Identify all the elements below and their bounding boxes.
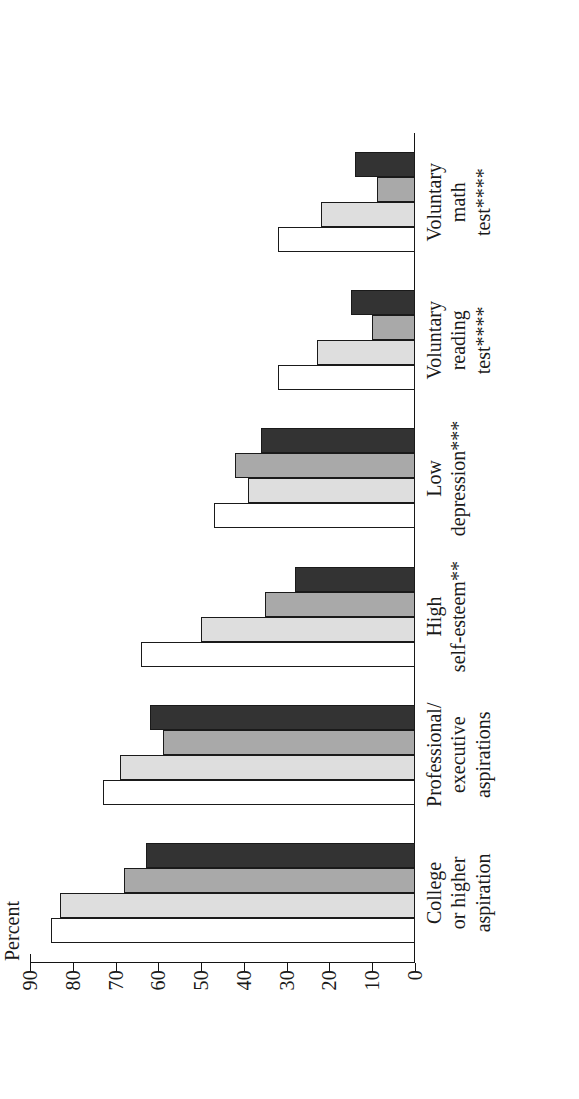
bar-group-bars <box>30 705 415 805</box>
bar[interactable] <box>372 315 415 340</box>
bar[interactable] <box>103 780 415 805</box>
bar[interactable] <box>150 705 415 730</box>
category-labels: College or higher aspirationProfessional… <box>418 132 495 962</box>
category-label: Low depression*** <box>418 409 495 547</box>
bar[interactable] <box>317 340 415 365</box>
category-label: College or higher aspiration <box>418 824 495 962</box>
bar[interactable] <box>265 592 415 617</box>
bar-chart: Percent 9080706050403020100 College or h… <box>0 0 579 1099</box>
bar-group <box>30 824 415 962</box>
bar[interactable] <box>355 152 415 177</box>
category-label: Voluntary reading test**** <box>418 271 495 409</box>
bar-group <box>30 271 415 409</box>
bar[interactable] <box>214 503 415 528</box>
value-axis-line <box>30 962 415 963</box>
y-axis-tick-label: 70 <box>106 970 126 991</box>
bar[interactable] <box>278 365 415 390</box>
bar-group-bars <box>30 567 415 667</box>
bar[interactable] <box>295 567 415 592</box>
bar[interactable] <box>146 843 416 868</box>
y-axis-title: Percent <box>2 901 22 961</box>
bar-group-bars <box>30 843 415 943</box>
rotated-chart-wrapper: Percent 9080706050403020100 College or h… <box>0 0 579 1099</box>
bar[interactable] <box>351 290 415 315</box>
bar[interactable] <box>141 642 415 667</box>
bar[interactable] <box>377 177 416 202</box>
bar[interactable] <box>201 617 415 642</box>
y-axis-tick-label: 50 <box>191 970 211 991</box>
bar[interactable] <box>321 202 415 227</box>
bar-group <box>30 686 415 824</box>
bar[interactable] <box>120 755 415 780</box>
category-label: High self-esteem** <box>418 548 495 686</box>
bar[interactable] <box>248 478 415 503</box>
bar[interactable] <box>278 227 415 252</box>
bar-group-bars <box>30 290 415 390</box>
bar-group-bars <box>30 428 415 528</box>
bar[interactable] <box>261 428 415 453</box>
y-axis-tick-label: 90 <box>20 970 40 991</box>
y-axis-tick-label: 10 <box>362 970 382 991</box>
y-axis-tick-label: 20 <box>319 970 339 991</box>
bar[interactable] <box>51 918 415 943</box>
y-axis-tick-label: 40 <box>234 970 254 991</box>
plot-area: 9080706050403020100 <box>30 133 415 963</box>
bar[interactable] <box>235 453 415 478</box>
bar[interactable] <box>124 868 415 893</box>
bar-group <box>30 133 415 271</box>
bar[interactable] <box>163 730 415 755</box>
category-label: Professional/ executive aspirations <box>418 686 495 824</box>
bar-group <box>30 409 415 547</box>
bar[interactable] <box>60 893 415 918</box>
y-axis-tick-label: 0 <box>405 970 425 980</box>
chart-page: Percent 9080706050403020100 College or h… <box>0 0 579 1099</box>
y-axis-tick-label: 60 <box>148 970 168 991</box>
bar-group <box>30 548 415 686</box>
bar-groups <box>30 133 415 962</box>
bar-group-bars <box>30 152 415 252</box>
y-axis-tick-label: 80 <box>63 970 83 991</box>
category-label: Voluntary math test**** <box>418 133 495 271</box>
y-axis-tick-label: 30 <box>277 970 297 991</box>
